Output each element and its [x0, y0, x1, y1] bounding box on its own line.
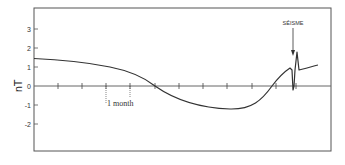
month-scale-label: 1 month — [107, 99, 133, 108]
month-scale-marker: 1 month — [106, 86, 133, 108]
event-annotation: SÉISME — [283, 20, 304, 56]
ytick-label: -2 — [25, 121, 31, 128]
ytick-label: 2 — [27, 45, 31, 52]
plot-frame — [34, 8, 331, 151]
ytick-label: -1 — [25, 102, 31, 109]
arrow-head-icon — [291, 50, 295, 56]
chart: 3 2 1 0 -1 -2 nT 1 month SÉISME — [0, 0, 345, 165]
ytick-label: 1 — [27, 64, 31, 71]
data-series-line — [34, 52, 318, 109]
ytick-label: 0 — [27, 83, 31, 90]
ytick-label: 3 — [27, 26, 31, 33]
zero-line — [34, 83, 331, 89]
y-axis-label: nT — [13, 79, 24, 92]
event-label: SÉISME — [283, 20, 304, 26]
